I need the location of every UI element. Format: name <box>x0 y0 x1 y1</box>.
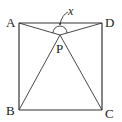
angle-x-pointer-dot <box>59 23 61 25</box>
square-with-interior-point-diagram: A D B C P x <box>0 0 122 122</box>
vertex-label-b: B <box>6 103 15 118</box>
vertex-label-a: A <box>6 15 16 30</box>
angle-x-arc <box>53 26 67 33</box>
angle-x-pointer <box>60 12 68 24</box>
point-label-p: P <box>56 41 63 56</box>
vertex-label-d: D <box>105 15 114 30</box>
vertex-label-c: C <box>105 106 114 121</box>
segment-pb <box>19 35 60 110</box>
segment-pc <box>60 35 102 110</box>
angle-label-x: x <box>67 4 74 18</box>
